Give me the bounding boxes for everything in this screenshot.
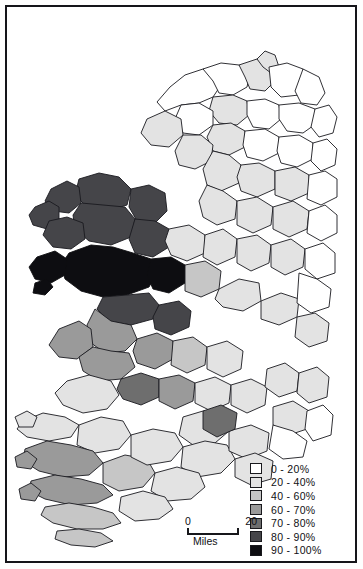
scale-bar: 0 20 Miles [185,515,263,547]
district-tipperary-n[interactable] [207,341,243,377]
map-frame: 0 - 20% 20 - 40% 40 - 60% 60 - 70% 70 - … [5,5,357,563]
district-galway-east[interactable] [147,257,185,293]
district-cork-central[interactable] [131,429,183,465]
legend-label-80-90: 80 - 90% [271,531,315,543]
district-north-lower-3[interactable] [243,129,279,161]
district-laois[interactable] [261,293,299,325]
district-north-mid-2[interactable] [247,99,281,129]
district-wexford-n[interactable] [297,367,329,403]
district-north-lower-4[interactable] [277,135,313,167]
district-mayo-east[interactable] [129,185,167,223]
legend-swatch-40-60 [250,490,262,501]
district-wicklow-s[interactable] [295,313,329,347]
district-waterford-w[interactable] [229,425,269,459]
scale-units-label: Miles [185,535,263,547]
district-wicklow-n[interactable] [297,273,331,313]
district-sligo-coast[interactable] [141,111,183,147]
legend-item[interactable]: 60 - 70% [250,503,354,517]
scale-bar-line [187,533,239,535]
scale-tick-start [187,528,189,535]
district-north-east-edge[interactable] [311,105,337,137]
district-kerry-central[interactable] [77,417,131,453]
district-dublin[interactable] [305,243,335,279]
legend-item[interactable]: 80 - 90% [250,530,354,544]
district-carlow[interactable] [265,363,299,397]
district-midlands-1[interactable] [203,229,237,265]
legend-label-40-60: 40 - 60% [271,490,315,502]
district-roscommon-n[interactable] [165,225,205,261]
legend-item[interactable]: 90 - 100% [250,544,354,558]
legend-item[interactable]: 0 - 20% [250,462,354,476]
district-limerick-n[interactable] [171,337,207,373]
legend-label-90-100: 90 - 100% [271,544,322,556]
scale-start-label: 0 [185,515,191,527]
district-offaly[interactable] [215,279,261,311]
scale-bar-numbers: 0 20 [185,515,263,527]
district-roscommon-s[interactable] [185,261,221,297]
district-monaghan[interactable] [275,167,309,201]
district-mizen[interactable] [41,503,121,529]
district-longford[interactable] [199,185,237,225]
district-meath-w[interactable] [273,201,309,237]
scale-tick-end [237,528,239,535]
district-mayo-se[interactable] [129,219,169,257]
legend-label-70-80: 70 - 80% [271,517,315,529]
district-connemara-coast[interactable] [29,251,67,283]
district-sheeps-head[interactable] [55,529,113,547]
district-meath-coast[interactable] [307,205,337,241]
legend-swatch-60-70 [250,504,262,515]
district-limerick-core[interactable] [159,375,195,409]
district-kildare-n[interactable] [271,239,305,275]
legend-item[interactable]: 20 - 40% [250,476,354,490]
district-galway-se[interactable] [153,301,191,335]
legend-label-20-40: 20 - 40% [271,476,315,488]
legend-label-0-20: 0 - 20% [271,463,309,475]
district-clew-bay-south[interactable] [43,217,85,249]
map-page: 0 - 20% 20 - 40% 40 - 60% 60 - 70% 70 - … [0,0,363,569]
district-clare-east[interactable] [133,333,173,369]
district-westmeath[interactable] [237,197,273,233]
legend-swatch-0-20 [250,463,262,474]
district-tipperary-s[interactable] [195,377,231,411]
district-wexford-coast[interactable] [305,405,333,441]
district-north-mid-3[interactable] [279,103,317,133]
district-beara[interactable] [29,475,113,505]
district-kilkenny[interactable] [231,379,267,413]
district-north-kerry[interactable] [55,375,119,413]
district-ne-coast[interactable] [311,139,337,171]
district-louth[interactable] [307,171,337,205]
district-limerick-w[interactable] [117,373,159,405]
legend-item[interactable]: 70 - 80% [250,516,354,530]
district-cavan[interactable] [237,163,275,197]
scale-bar-graphic [185,528,263,535]
choropleth-legend: 0 - 20% 20 - 40% 40 - 60% 60 - 70% 70 - … [250,462,354,557]
legend-label-60-70: 60 - 70% [271,504,315,516]
legend-swatch-20-40 [250,477,262,488]
district-midlands-2[interactable] [237,235,271,271]
scale-end-label: 20 [245,515,257,527]
district-dingle-tip[interactable] [15,411,37,427]
legend-item[interactable]: 40 - 60% [250,489,354,503]
district-north-mid-1[interactable] [209,95,249,125]
